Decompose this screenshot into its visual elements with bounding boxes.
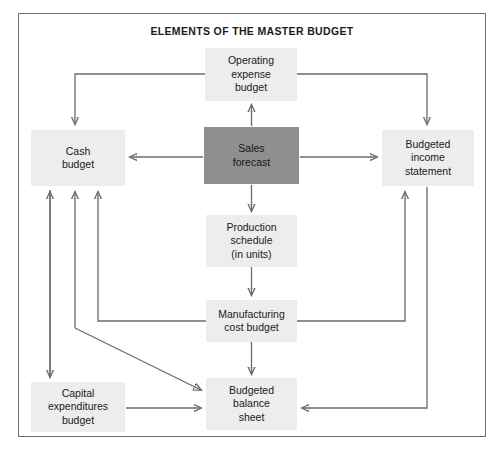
connector-budgeted-income-statement-to-budgeted-balance-sheet — [302, 187, 427, 408]
node-operating-expense-budget[interactable]: Operating expense budget — [205, 48, 297, 101]
node-manufacturing-cost-budget[interactable]: Manufacturing cost budget — [206, 300, 297, 342]
connector-operating-expense-to-cash-budget — [75, 74, 205, 124]
node-cash-budget[interactable]: Cash budget — [31, 130, 125, 186]
node-sales-forecast[interactable]: Sales forecast — [204, 127, 299, 184]
connector-manufacturing-cost-to-budgeted-income-statement — [297, 192, 405, 321]
node-capital-expenditures-budget[interactable]: Capital expenditures budget — [31, 382, 125, 432]
connector-operating-expense-to-budgeted-income-statement — [297, 74, 427, 124]
master-budget-diagram: ELEMENTS OF THE MASTER BUDGET — [0, 0, 504, 464]
node-production-schedule[interactable]: Production schedule (in units) — [206, 215, 297, 267]
connector-manufacturing-cost-to-budgeted-balance-sheet-diagonal — [75, 328, 201, 390]
node-budgeted-income-statement[interactable]: Budgeted income statement — [382, 130, 474, 186]
connector-manufacturing-cost-to-cash-budget — [98, 192, 206, 321]
node-budgeted-balance-sheet[interactable]: Budgeted balance sheet — [206, 378, 297, 430]
